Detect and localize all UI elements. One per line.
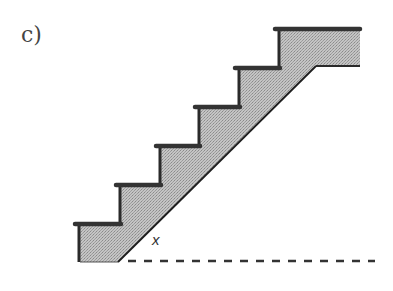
stringer-diagonal [118, 66, 316, 262]
angle-label: x [152, 231, 160, 248]
stair-body [80, 30, 360, 262]
staircase-diagram [0, 0, 393, 291]
